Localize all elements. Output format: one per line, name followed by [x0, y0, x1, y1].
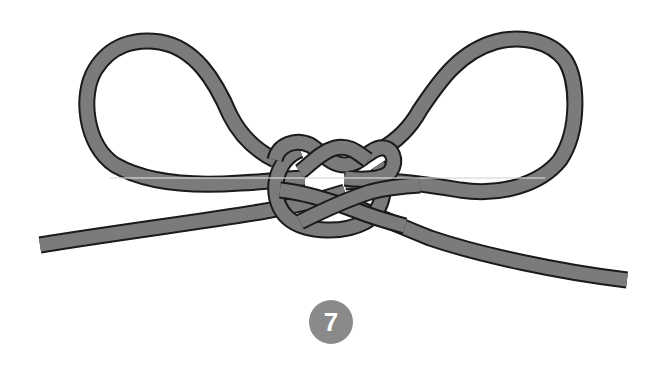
- step-number: 7: [324, 307, 338, 338]
- center-knot: [275, 142, 420, 230]
- left-loop: [87, 41, 305, 184]
- step-number-badge: 7: [309, 300, 353, 344]
